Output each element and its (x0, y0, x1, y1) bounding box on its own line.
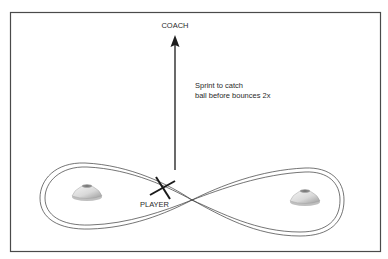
player-x-marker (150, 177, 175, 199)
drill-diagram: COACH Sprint to catch ball before bounce… (0, 0, 388, 259)
instruction-line-1: Sprint to catch (195, 81, 243, 90)
coach-label: COACH (161, 21, 188, 30)
cone-icon (72, 184, 102, 201)
instruction-line-2: ball before bounces 2x (195, 91, 271, 100)
cone-icon (290, 189, 320, 206)
player-label: PLAYER (140, 200, 170, 209)
sprint-arrow (171, 35, 180, 170)
field-frame (11, 13, 381, 252)
